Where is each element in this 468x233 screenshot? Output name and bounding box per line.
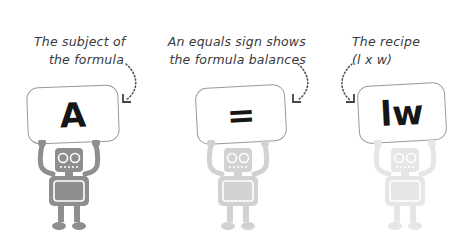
caption-subject-line2: the formula (34, 51, 124, 69)
caption-recipe: The recipe (l x w) (352, 33, 452, 69)
robot-recipe-icon (363, 140, 447, 232)
symbol-recipe: lw (380, 95, 425, 131)
card-equals: = (195, 84, 288, 146)
robot-subject-icon (27, 140, 111, 232)
caption-subject: The subject of the formula (34, 33, 124, 69)
caption-recipe-line1: The recipe (352, 33, 452, 51)
caption-subject-line1: The subject of (34, 33, 124, 51)
caption-equals-line2: the formula balances (156, 51, 306, 69)
caption-equals: An equals sign shows the formula balance… (156, 33, 306, 69)
card-recipe: lw (357, 82, 448, 145)
caption-equals-line1: An equals sign shows (156, 33, 306, 51)
caption-recipe-line2: (l x w) (352, 51, 452, 69)
dotted-arrow-subject-icon (118, 60, 148, 110)
robot-equals-icon (196, 140, 280, 232)
symbol-subject: A (59, 97, 86, 132)
symbol-equals: = (226, 97, 256, 132)
dotted-arrow-equals-icon (288, 60, 318, 110)
card-subject: A (26, 84, 120, 144)
